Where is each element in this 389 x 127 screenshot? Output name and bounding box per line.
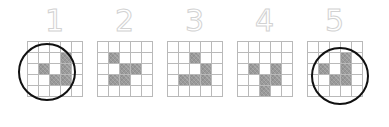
- grid-cell-empty[interactable]: [168, 86, 179, 97]
- grid-cell-empty[interactable]: [109, 42, 120, 53]
- grid-cell-empty[interactable]: [72, 86, 83, 97]
- grid-cell-empty[interactable]: [179, 64, 190, 75]
- grid-cell-empty[interactable]: [308, 53, 319, 64]
- grid-cell-empty[interactable]: [61, 86, 72, 97]
- grid-cell-empty[interactable]: [238, 75, 249, 86]
- grid-cell-empty[interactable]: [72, 42, 83, 53]
- grid-cell-filled[interactable]: [319, 64, 330, 75]
- grid-cell-empty[interactable]: [319, 75, 330, 86]
- grid-cell-empty[interactable]: [282, 42, 293, 53]
- grid-cell-empty[interactable]: [249, 42, 260, 53]
- grid-cell-empty[interactable]: [238, 53, 249, 64]
- grid-cell-empty[interactable]: [131, 53, 142, 64]
- grid-cell-filled[interactable]: [201, 64, 212, 75]
- pattern-panel-1[interactable]: 1: [25, 6, 85, 97]
- pattern-grid-5[interactable]: [307, 41, 363, 97]
- grid-cell-empty[interactable]: [319, 86, 330, 97]
- grid-cell-empty[interactable]: [249, 75, 260, 86]
- grid-cell-filled[interactable]: [260, 86, 271, 97]
- grid-cell-filled[interactable]: [271, 75, 282, 86]
- grid-cell-empty[interactable]: [98, 53, 109, 64]
- grid-cell-empty[interactable]: [212, 42, 223, 53]
- grid-cell-empty[interactable]: [179, 42, 190, 53]
- grid-cell-empty[interactable]: [131, 75, 142, 86]
- grid-cell-empty[interactable]: [190, 42, 201, 53]
- grid-cell-empty[interactable]: [72, 64, 83, 75]
- pattern-panel-2[interactable]: 2: [95, 6, 155, 97]
- grid-cell-empty[interactable]: [319, 42, 330, 53]
- grid-cell-filled[interactable]: [271, 64, 282, 75]
- grid-cell-empty[interactable]: [39, 42, 50, 53]
- grid-cell-empty[interactable]: [109, 86, 120, 97]
- grid-cell-empty[interactable]: [282, 53, 293, 64]
- grid-cell-empty[interactable]: [308, 42, 319, 53]
- grid-cell-empty[interactable]: [260, 53, 271, 64]
- grid-cell-empty[interactable]: [352, 42, 363, 53]
- grid-cell-empty[interactable]: [352, 75, 363, 86]
- grid-cell-empty[interactable]: [238, 86, 249, 97]
- grid-cell-empty[interactable]: [201, 86, 212, 97]
- grid-cell-filled[interactable]: [61, 53, 72, 64]
- grid-cell-empty[interactable]: [39, 86, 50, 97]
- grid-cell-filled[interactable]: [249, 64, 260, 75]
- grid-cell-empty[interactable]: [190, 86, 201, 97]
- grid-cell-empty[interactable]: [308, 64, 319, 75]
- grid-cell-empty[interactable]: [98, 42, 109, 53]
- grid-cell-filled[interactable]: [120, 64, 131, 75]
- grid-cell-empty[interactable]: [190, 64, 201, 75]
- pattern-grid-3[interactable]: [167, 41, 223, 97]
- grid-cell-empty[interactable]: [50, 53, 61, 64]
- grid-cell-empty[interactable]: [341, 42, 352, 53]
- grid-cell-empty[interactable]: [50, 42, 61, 53]
- grid-cell-empty[interactable]: [330, 42, 341, 53]
- grid-cell-filled[interactable]: [61, 64, 72, 75]
- grid-cell-empty[interactable]: [120, 86, 131, 97]
- grid-cell-filled[interactable]: [50, 75, 61, 86]
- grid-cell-empty[interactable]: [319, 53, 330, 64]
- grid-cell-empty[interactable]: [39, 53, 50, 64]
- grid-cell-empty[interactable]: [142, 64, 153, 75]
- grid-cell-empty[interactable]: [352, 64, 363, 75]
- grid-cell-filled[interactable]: [260, 75, 271, 86]
- grid-cell-empty[interactable]: [330, 86, 341, 97]
- grid-cell-empty[interactable]: [352, 53, 363, 64]
- grid-cell-filled[interactable]: [330, 75, 341, 86]
- grid-cell-empty[interactable]: [282, 64, 293, 75]
- grid-cell-empty[interactable]: [168, 64, 179, 75]
- pattern-panel-5[interactable]: 5: [305, 6, 365, 97]
- grid-cell-empty[interactable]: [98, 75, 109, 86]
- grid-cell-empty[interactable]: [28, 42, 39, 53]
- grid-cell-empty[interactable]: [142, 53, 153, 64]
- grid-cell-empty[interactable]: [271, 86, 282, 97]
- grid-cell-empty[interactable]: [120, 42, 131, 53]
- grid-cell-empty[interactable]: [249, 53, 260, 64]
- grid-cell-empty[interactable]: [120, 53, 131, 64]
- grid-cell-empty[interactable]: [98, 86, 109, 97]
- grid-cell-empty[interactable]: [212, 64, 223, 75]
- grid-cell-filled[interactable]: [190, 53, 201, 64]
- grid-cell-empty[interactable]: [282, 75, 293, 86]
- pattern-grid-1[interactable]: [27, 41, 83, 97]
- grid-cell-empty[interactable]: [238, 64, 249, 75]
- grid-cell-filled[interactable]: [39, 64, 50, 75]
- grid-cell-filled[interactable]: [341, 75, 352, 86]
- grid-cell-empty[interactable]: [212, 75, 223, 86]
- grid-cell-filled[interactable]: [61, 75, 72, 86]
- grid-cell-empty[interactable]: [330, 64, 341, 75]
- pattern-grid-2[interactable]: [97, 41, 153, 97]
- pattern-panel-4[interactable]: 4: [235, 6, 295, 97]
- grid-cell-empty[interactable]: [61, 42, 72, 53]
- grid-cell-empty[interactable]: [201, 53, 212, 64]
- grid-cell-empty[interactable]: [201, 42, 212, 53]
- grid-cell-empty[interactable]: [168, 42, 179, 53]
- grid-cell-filled[interactable]: [109, 75, 120, 86]
- grid-cell-empty[interactable]: [282, 86, 293, 97]
- grid-cell-empty[interactable]: [212, 53, 223, 64]
- grid-cell-empty[interactable]: [330, 53, 341, 64]
- grid-cell-empty[interactable]: [142, 75, 153, 86]
- grid-cell-filled[interactable]: [201, 75, 212, 86]
- grid-cell-empty[interactable]: [28, 53, 39, 64]
- grid-cell-filled[interactable]: [341, 64, 352, 75]
- grid-cell-empty[interactable]: [39, 75, 50, 86]
- pattern-panel-3[interactable]: 3: [165, 6, 225, 97]
